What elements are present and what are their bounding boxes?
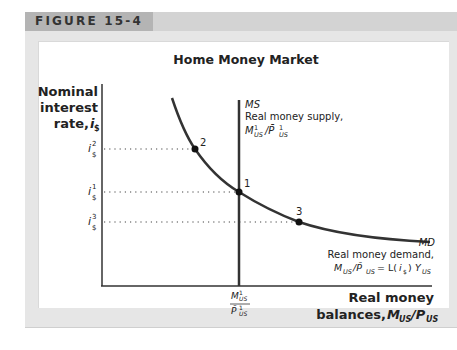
svg-text:$: $	[403, 268, 407, 275]
point-3-label: 3	[296, 206, 302, 217]
svg-text:$: $	[92, 194, 96, 202]
chart-title: Home Money Market	[173, 52, 318, 67]
svg-text:rate,: rate,	[54, 116, 89, 131]
ms-label: MS Real money supply, M 1 US /P̄ 1 US	[245, 99, 343, 139]
svg-text:$: $	[92, 151, 96, 159]
svg-text:M: M	[245, 125, 254, 136]
svg-text:Y: Y	[415, 262, 422, 273]
svg-text:US: US	[343, 268, 352, 276]
svg-text:i: i	[399, 262, 402, 273]
point-2-label: 2	[200, 137, 206, 148]
x-axis-label: Real money balances, M US /P US	[316, 290, 438, 324]
y-tick-i3: i 3 $	[88, 213, 96, 232]
svg-text:$: $	[92, 224, 96, 232]
y-tick-i1: i 1 $	[88, 183, 96, 202]
svg-text:1: 1	[92, 183, 96, 191]
md-label: MD Real money demand, M US /P̄ US = L( i…	[328, 237, 436, 276]
point-2	[192, 146, 199, 153]
svg-text:US: US	[279, 131, 288, 139]
svg-text:US: US	[366, 268, 375, 276]
svg-text:MS: MS	[245, 99, 261, 110]
svg-text:US: US	[426, 315, 438, 324]
svg-text:US: US	[239, 295, 247, 302]
svg-text:M: M	[231, 291, 239, 301]
svg-text:/P: /P	[409, 307, 426, 322]
svg-text:/P̄: /P̄	[264, 124, 275, 136]
svg-text:Nominal: Nominal	[38, 84, 98, 99]
svg-text:US: US	[239, 310, 247, 317]
y-tick-i2: i 2 $	[88, 140, 96, 159]
svg-text:balances,: balances,	[316, 307, 386, 322]
svg-text:3: 3	[92, 213, 96, 221]
svg-text:US: US	[399, 315, 411, 324]
svg-text:): )	[408, 262, 412, 273]
svg-text:P̄: P̄	[231, 305, 237, 316]
svg-text:i: i	[88, 215, 91, 228]
svg-text:US: US	[422, 268, 431, 276]
y-axis-label: Nominal interest rate, i $	[38, 84, 100, 133]
svg-text:Real money demand,: Real money demand,	[328, 249, 434, 260]
svg-text:$: $	[94, 124, 100, 133]
point-1	[236, 189, 243, 196]
svg-text:2: 2	[92, 140, 96, 148]
svg-text:interest: interest	[40, 100, 98, 115]
svg-text:i: i	[88, 142, 91, 155]
svg-text:M: M	[334, 262, 342, 273]
svg-text:Real money supply,: Real money supply,	[245, 111, 343, 122]
point-1-label: 1	[244, 178, 250, 189]
svg-text:= L(: = L(	[377, 262, 397, 273]
svg-text:Real money: Real money	[348, 290, 434, 305]
svg-text:/P̄: /P̄	[352, 262, 362, 273]
money-market-chart: Home Money Market Nominal interest rate,…	[0, 0, 457, 350]
x-tick-ms: M 1 US P̄ 1 US	[230, 289, 250, 317]
point-3	[296, 219, 303, 226]
svg-text:i: i	[88, 185, 91, 198]
svg-text:MD: MD	[419, 237, 436, 248]
svg-text:US: US	[254, 131, 263, 139]
